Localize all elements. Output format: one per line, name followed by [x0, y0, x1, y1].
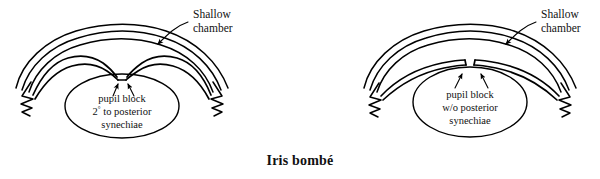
- pupil-block-arrow-2-right: [481, 74, 488, 88]
- pupil-block-label-left-line2: 2° to posterior: [93, 105, 152, 117]
- pupil-block-label-right-line1: pupil block: [446, 89, 494, 100]
- shallow-chamber-label-left-line2: chamber: [193, 22, 233, 34]
- pupil-margin-right-right-panel: [474, 60, 475, 65]
- pupil-block-label-left-line2-rest: to posterior: [101, 106, 152, 117]
- pupil-block-label-right-line2: w/o posterior: [442, 102, 498, 113]
- pupil-block-label-right-line3: synechiae: [449, 115, 491, 126]
- pupil-block-label-left-line1: pupil block: [98, 93, 146, 104]
- shallow-chamber-label-right-line1: Shallow: [541, 8, 579, 20]
- pupil-margin-left-right-panel: [465, 60, 466, 65]
- shallow-chamber-label-right-line2: chamber: [541, 22, 581, 34]
- pupil-block-label-left-line3: synechiae: [101, 119, 143, 130]
- shallow-chamber-label-left-line1: Shallow: [193, 8, 231, 20]
- pupil-block-arrow-1-right: [455, 74, 462, 88]
- zonule-zigzag-left-panel-right: [211, 82, 223, 116]
- zonule-zigzag-right-panel-right: [559, 83, 571, 117]
- figure-canvas: Shallow chamber pupil block 2° to poster…: [0, 0, 600, 179]
- figure-caption: Iris bombé: [267, 153, 334, 168]
